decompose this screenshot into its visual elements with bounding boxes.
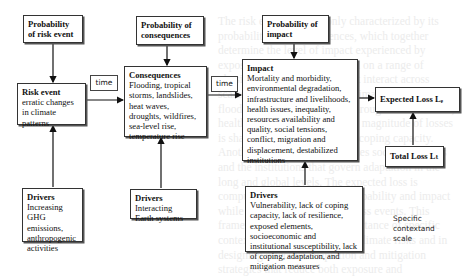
drivers-consequences-title: Drivers	[135, 193, 192, 203]
drivers-risk-event-description: Increasing GHG emissions, anthropogenic …	[27, 202, 78, 253]
impact-title: Impact	[247, 63, 353, 73]
drivers-impact-box: Drivers Vulnerability, lack of coping ca…	[245, 186, 363, 252]
drivers-impact-description: Vulnerability, lack of coping capacity, …	[250, 200, 358, 271]
drivers-consequences-description: Interacting Earth systems	[135, 203, 192, 223]
consequences-description: Flooding, tropical storms, landslides, h…	[129, 80, 202, 141]
consequences-title: Consequences	[129, 70, 202, 80]
probability-risk-event-box: Probability of risk event	[23, 15, 83, 43]
time-label-2: time	[211, 76, 238, 92]
probability-consequences-box: Probability of consequences	[136, 16, 204, 45]
probability-impact-title: Probability of impact	[267, 19, 324, 39]
probability-impact-box: Probability of impact	[262, 15, 329, 43]
time-label-1: time	[90, 75, 118, 91]
drivers-consequences-box: Drivers Interacting Earth systems	[130, 189, 197, 219]
drivers-risk-event-title: Drivers	[27, 192, 78, 202]
probability-consequences-title: Probability of consequences	[141, 20, 199, 40]
drivers-impact-title: Drivers	[250, 190, 358, 200]
risk-event-description: erratic changes in climate patterns	[22, 97, 81, 128]
drivers-risk-event-box: Drivers Increasing GHG emissions, anthro…	[22, 188, 83, 242]
risk-event-title: Risk event	[22, 87, 81, 97]
expected-loss-box: Expected Loss Lₑ	[375, 87, 460, 112]
impact-box: Impact Mortality and morbidity, environm…	[242, 59, 358, 161]
total-loss-box: Total Loss Lₜ	[385, 146, 444, 167]
probability-risk-event-title: Probability of risk event	[28, 19, 78, 39]
consequences-box: Consequences Flooding, tropical storms, …	[124, 66, 207, 137]
total-loss-title: Total Loss Lₜ	[390, 151, 439, 161]
context-scale-note: Specific contextand scale	[393, 214, 441, 244]
impact-description: Mortality and morbidity, environmental d…	[247, 73, 353, 165]
expected-loss-title: Expected Loss Lₑ	[380, 94, 455, 104]
risk-event-box: Risk event erratic changes in climate pa…	[17, 83, 86, 125]
